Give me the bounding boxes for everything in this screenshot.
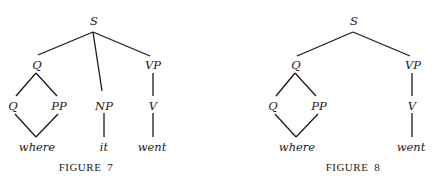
edge-qlow-where	[15, 114, 36, 137]
node-pp: PP	[310, 99, 327, 113]
edge-s-np	[93, 32, 102, 91]
tree-figure-8: S Q VP Q PP V where went FIGURE8	[268, 14, 425, 173]
node-vp: VP	[145, 58, 161, 72]
node-q: Q	[32, 58, 42, 72]
leaf-went: went	[138, 140, 167, 154]
node-q: Q	[291, 58, 301, 72]
leaf-went: went	[397, 140, 426, 154]
figure-7-caption: FIGURE7	[59, 161, 114, 173]
edge-q-qlow	[16, 73, 36, 96]
edge-q-qlow	[276, 73, 295, 96]
node-q-lower: Q	[8, 99, 18, 113]
node-s: S	[90, 14, 98, 28]
edge-pp-where	[296, 114, 318, 137]
edge-s-vp	[353, 32, 410, 56]
figures-canvas: S Q VP Q PP NP V where it went FIGURE7 S…	[0, 0, 441, 186]
node-vp: VP	[405, 58, 421, 72]
edge-q-pp	[295, 73, 316, 96]
node-v: V	[408, 99, 418, 113]
leaf-where: where	[19, 140, 56, 154]
leaf-it: it	[100, 140, 109, 154]
tree-figure-7: S Q VP Q PP NP V where it went FIGURE7	[8, 14, 166, 173]
leaf-where: where	[279, 140, 316, 154]
node-q-lower: Q	[268, 99, 278, 113]
edge-s-q	[297, 32, 353, 56]
edge-s-vp	[93, 32, 150, 56]
edge-qlow-where	[275, 114, 296, 137]
node-np: NP	[94, 99, 113, 113]
node-s: S	[350, 14, 358, 28]
edge-s-q	[38, 32, 93, 55]
edge-pp-where	[36, 114, 58, 137]
figure-8-caption: FIGURE8	[326, 161, 381, 173]
node-v: V	[149, 99, 159, 113]
node-pp: PP	[50, 99, 67, 113]
edge-q-pp	[36, 73, 57, 96]
